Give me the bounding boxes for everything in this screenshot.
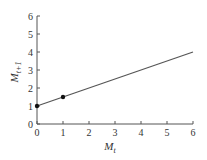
data-point [61,95,65,99]
x-tick-label: 3 [113,127,118,138]
y-tick-label: 2 [28,83,33,94]
y-tick-label: 5 [28,29,33,40]
x-tick-label: 0 [35,127,40,138]
y-axis-label: Mt+1 [8,62,23,84]
x-axis-label-sub: t [113,146,116,155]
y-tick-label: 6 [28,11,33,22]
y-axis-label-sub: t+1 [14,62,23,74]
axes [37,16,193,124]
x-tick-label: 5 [165,127,170,138]
chart: 01234560123456 Mt Mt+1 [0,0,207,160]
series-line [37,52,193,106]
data-point [35,104,39,108]
x-tick-label: 4 [139,127,144,138]
ticks: 01234560123456 [28,11,196,139]
x-tick-label: 1 [61,127,66,138]
x-tick-label: 6 [191,127,196,138]
y-tick-label: 1 [28,101,33,112]
y-tick-label: 4 [28,47,33,58]
x-axis-label: Mt [103,140,116,155]
y-tick-label: 0 [28,119,33,130]
series [37,52,193,106]
x-tick-label: 2 [87,127,92,138]
y-tick-label: 3 [28,65,33,76]
